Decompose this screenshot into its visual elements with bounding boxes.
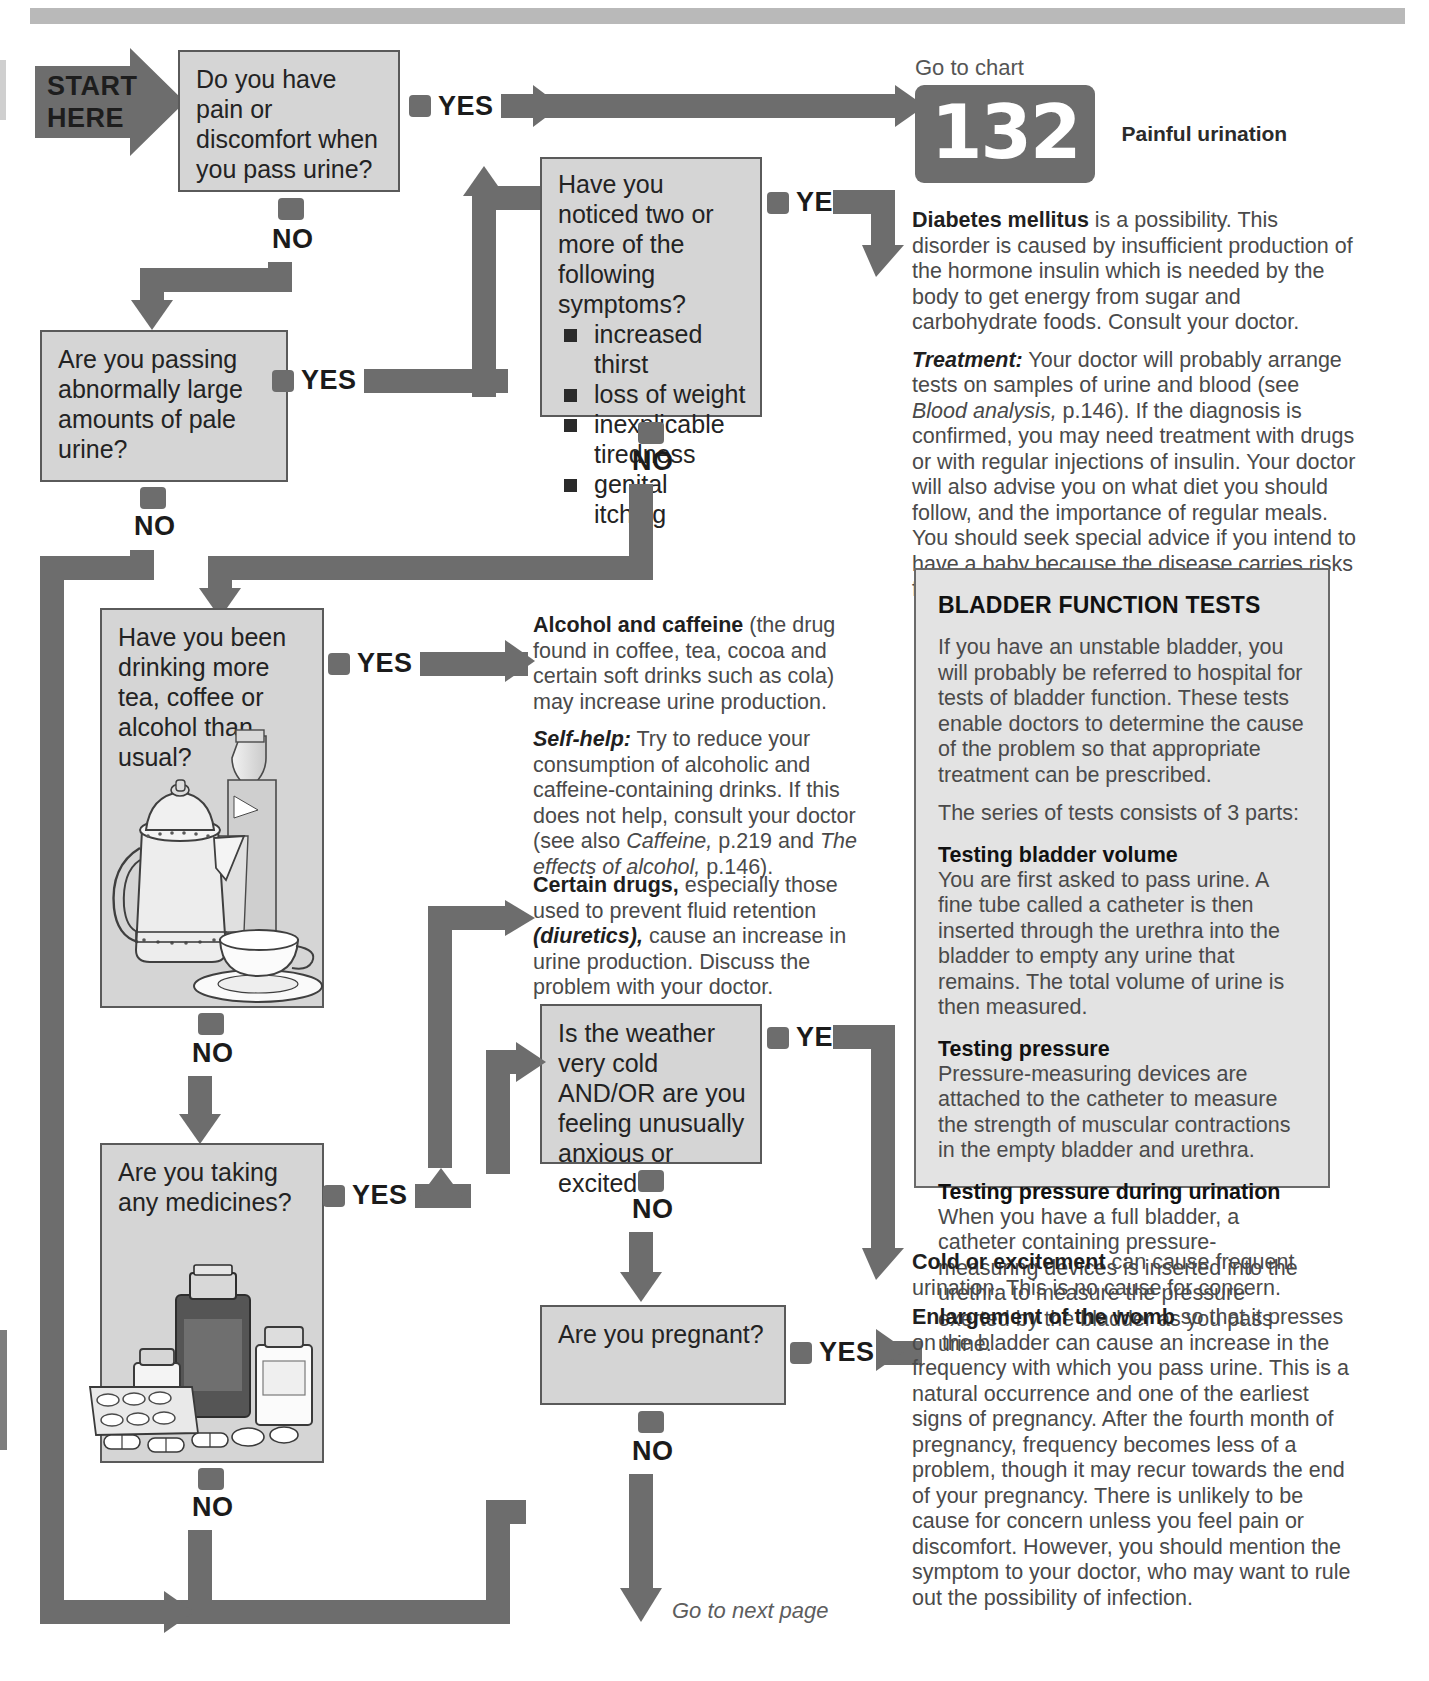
- advice-lead: Certain drugs,: [533, 873, 679, 897]
- q3-yes-arrowhead: [862, 245, 904, 277]
- cross-ref: Caffeine,: [626, 829, 712, 853]
- go-to-next-page-label: Go to next page: [672, 1598, 829, 1624]
- panel-subheading: Testing bladder volume: [938, 843, 1308, 868]
- panel-paragraph: You are first asked to pass urine. A fin…: [938, 868, 1308, 1021]
- chart-page: STARTHERE Do you have pain or discomfort…: [0, 0, 1429, 1681]
- yes-label: YES: [301, 365, 357, 396]
- q5-yes-riser: [428, 906, 452, 1168]
- panel-subheading: Testing pressure during urination: [938, 1180, 1308, 1205]
- q5-no-vert: [188, 1530, 212, 1600]
- list-item: loss of weight: [558, 379, 746, 409]
- q1-no-arrowhead: [131, 300, 173, 330]
- chart-number-badge[interactable]: 132: [915, 85, 1095, 183]
- branch-marker: [323, 1185, 345, 1207]
- question-box-pale-urine[interactable]: Are you passing abnormally large amounts…: [40, 330, 288, 482]
- q3-yes-vert: [871, 190, 895, 252]
- yes-label: YES: [357, 648, 413, 679]
- q6-no-stub: [638, 1170, 664, 1192]
- advice-paragraph: Self-help: Try to reduce your consumptio…: [533, 727, 863, 880]
- panel-paragraph: Pressure-measuring devices are attached …: [938, 1062, 1308, 1164]
- q3-no-vert: [629, 484, 653, 560]
- branch-marker: [409, 95, 431, 117]
- q7-no-stub: [638, 1411, 664, 1433]
- advice-cold-excitement: Cold or excitement can cause frequent ur…: [912, 1250, 1360, 1313]
- left-spine: [40, 556, 64, 1600]
- branch-marker: [272, 370, 294, 392]
- q7-no-label: NO: [632, 1436, 674, 1467]
- q2-no-label: NO: [134, 511, 176, 542]
- panel-title: BLADDER FUNCTION TESTS: [938, 592, 1308, 619]
- q7-no-vert: [629, 1474, 653, 1594]
- branch-marker: [767, 1027, 789, 1049]
- q1-no-stub: [278, 198, 304, 220]
- left-spine-arrowhead: [164, 1591, 194, 1633]
- bullet-icon: [564, 479, 577, 492]
- q1-no-label: NO: [272, 224, 314, 255]
- q5-yes-arrowhead: [505, 900, 535, 936]
- advice-certain-drugs: Certain drugs, especially those used to …: [533, 873, 863, 1013]
- advice-lead: Enlargement of the womb: [912, 1305, 1175, 1329]
- question-box-diabetes-symptoms[interactable]: Have you noticed two or more of the foll…: [540, 157, 762, 417]
- branch-marker: [328, 653, 350, 675]
- coffee-pot-bottle-cup-illustration: [108, 718, 324, 1003]
- list-item: increased thirst: [558, 319, 746, 379]
- bullet-icon: [564, 419, 577, 432]
- q4-no-label: NO: [192, 1038, 234, 1069]
- question-text: Have you noticed two or more of the foll…: [558, 169, 746, 319]
- q3-no-stub: [638, 422, 664, 444]
- q4-no-arrowhead: [179, 1114, 221, 1144]
- advice-paragraph: Treatment: Your doctor will probably arr…: [912, 348, 1360, 603]
- advice-diabetes: Diabetes mellitus is a possibility. This…: [912, 208, 1360, 615]
- q2-yes-riser: [472, 192, 496, 397]
- yes-label: YES: [819, 1337, 875, 1368]
- advice-paragraph: Enlargement of the womb so that it press…: [912, 1305, 1362, 1611]
- question-text: Do you have pain or discomfort when you …: [196, 64, 384, 184]
- q4-yes-branch: YES: [328, 648, 528, 679]
- q6-yes-vert: [871, 1025, 895, 1257]
- question-box-medicines[interactable]: Are you taking any medicines?: [100, 1143, 324, 1463]
- q1-yes-line: [525, 94, 897, 118]
- q5-no-label: NO: [192, 1492, 234, 1523]
- bottom-rail-elbow: [486, 1500, 526, 1524]
- pill-bottles-capsules-illustration: [80, 1237, 342, 1462]
- bullet-icon: [564, 389, 577, 402]
- q5-yes-elbow-top: [428, 906, 512, 930]
- q5-yes-corner-arrow: [420, 1168, 462, 1202]
- question-text: Are you passing abnormally large amounts…: [58, 344, 272, 464]
- page-edge-tick: [0, 1330, 7, 1450]
- q4-yes-arrowhead: [505, 640, 535, 682]
- q3-no-horiz: [208, 556, 653, 580]
- question-box-weather-anxiety[interactable]: Is the weather very cold AND/OR are you …: [540, 1004, 762, 1164]
- panel-subheading: Testing pressure: [938, 1037, 1308, 1062]
- advice-paragraph: Cold or excitement can cause frequent ur…: [912, 1250, 1360, 1301]
- chart-caption: Painful urination: [1121, 122, 1287, 146]
- q6-yes-arrowhead: [862, 1248, 904, 1280]
- q6-no-arrowhead: [620, 1272, 662, 1302]
- advice-enlargement-womb: Enlargement of the womb so that it press…: [912, 1305, 1362, 1623]
- question-box-pain-urination[interactable]: Do you have pain or discomfort when you …: [178, 50, 400, 192]
- q6-feed-arrowhead: [516, 1042, 546, 1082]
- cross-ref: Blood analysis,: [912, 399, 1057, 423]
- panel-paragraph: The series of tests consists of 3 parts:: [938, 801, 1308, 827]
- question-box-pregnant[interactable]: Are you pregnant?: [540, 1305, 786, 1405]
- bullet-icon: [564, 329, 577, 342]
- branch-marker: [767, 192, 789, 214]
- go-to-chart-label: Go to chart: [915, 55, 1287, 81]
- yes-label: YES: [352, 1180, 408, 1211]
- panel-paragraph: If you have an unstable bladder, you wil…: [938, 635, 1308, 788]
- question-box-drinks[interactable]: Have you been drinking more tea, coffee …: [100, 608, 324, 1008]
- next-page-arrowhead: [620, 1588, 662, 1622]
- page-edge-tick: [0, 60, 6, 120]
- advice-lead: Cold or excitement: [912, 1250, 1106, 1274]
- treatment-lead: Treatment:: [912, 348, 1023, 372]
- advice-paragraph: Diabetes mellitus is a possibility. This…: [912, 208, 1360, 336]
- q1-no-down: [140, 268, 164, 304]
- advice-alcohol-caffeine: Alcohol and caffeine (the drug found in …: [533, 613, 863, 892]
- selfhelp-lead: Self-help:: [533, 727, 631, 751]
- q4-no-stub: [198, 1013, 224, 1035]
- advice-paragraph: Certain drugs, especially those used to …: [533, 873, 863, 1001]
- branch-marker: [790, 1342, 812, 1364]
- q2-yes-elbow: [472, 186, 542, 210]
- advice-lead: Diabetes mellitus: [912, 208, 1089, 232]
- chart-reference[interactable]: Go to chart 132 Painful urination: [915, 55, 1287, 183]
